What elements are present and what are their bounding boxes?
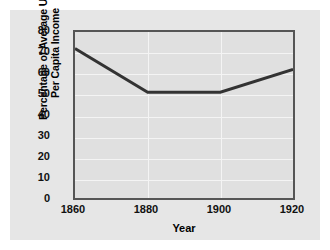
y-tick-label-60: 60 xyxy=(10,67,50,78)
y-tick-label-40: 40 xyxy=(10,109,50,120)
x-tick-label-1880: 1880 xyxy=(116,204,176,215)
y-tick-label-10: 10 xyxy=(10,172,50,183)
chart-screenshot: Percentage of Average U.S. Per Capita In… xyxy=(0,0,330,250)
chart-panel: Percentage of Average U.S. Per Capita In… xyxy=(10,10,320,240)
x-axis-title: Year xyxy=(73,222,295,234)
y-tick-label-0: 0 xyxy=(10,193,50,204)
y-axis-title-line2: Per Capita Income xyxy=(49,8,62,98)
y-tick-label-80: 80 xyxy=(10,25,50,36)
y-tick-label-70: 70 xyxy=(10,46,50,57)
x-tick-label-1860: 1860 xyxy=(43,204,103,215)
y-tick-label-30: 30 xyxy=(10,130,50,141)
plot-area xyxy=(73,30,295,200)
x-tick-label-1920: 1920 xyxy=(262,204,322,215)
y-axis-title-line1: Percentage of Average U.S. xyxy=(37,0,50,120)
y-tick-label-20: 20 xyxy=(10,151,50,162)
y-tick-label-50: 50 xyxy=(10,88,50,99)
x-tick-label-1900: 1900 xyxy=(189,204,249,215)
data-series-line xyxy=(75,32,293,198)
